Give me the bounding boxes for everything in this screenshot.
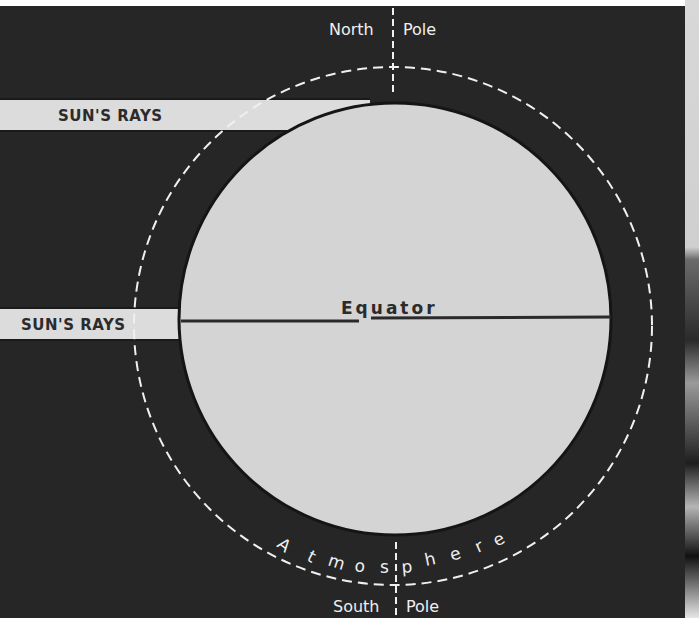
- svg-text:h: h: [423, 548, 438, 570]
- svg-text:m: m: [326, 550, 348, 574]
- south-pole-label: Pole: [406, 597, 439, 616]
- svg-text:o: o: [353, 555, 366, 576]
- svg-text:e: e: [447, 543, 463, 565]
- svg-text:e: e: [489, 528, 508, 551]
- north-label: North: [329, 20, 374, 39]
- svg-text:A: A: [274, 533, 296, 556]
- diagram-canvas: A t m o s p h e r e SUN'S RAYS SUN'S RAY…: [0, 0, 699, 618]
- north-pole-label: Pole: [403, 20, 436, 39]
- south-label: South: [333, 597, 380, 616]
- svg-text:p: p: [401, 556, 413, 577]
- equator-label: Equator: [341, 298, 438, 318]
- svg-text:s: s: [380, 557, 389, 577]
- svg-text:r: r: [471, 536, 486, 557]
- sun-rays-label-upper: SUN'S RAYS: [58, 107, 163, 125]
- sun-rays-label-lower: SUN'S RAYS: [21, 316, 126, 334]
- svg-text:t: t: [304, 546, 320, 567]
